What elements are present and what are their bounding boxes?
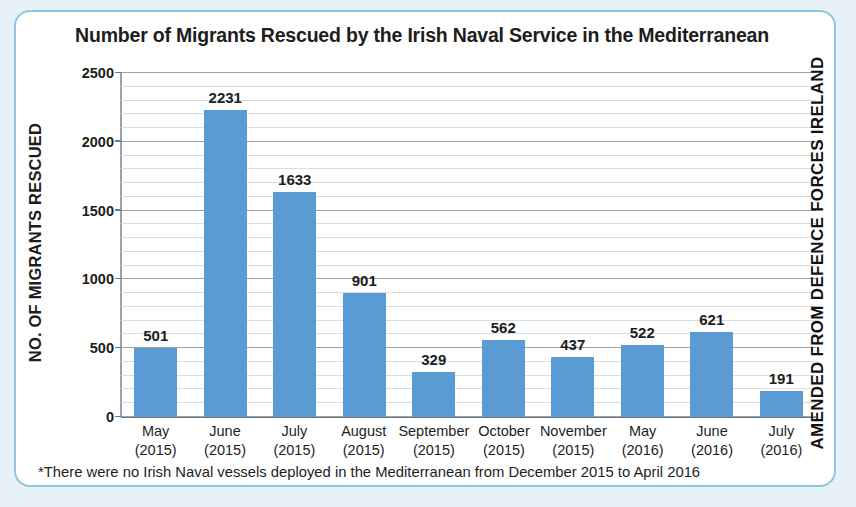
bar-slot: 562 [469, 73, 539, 417]
bar-value-label: 191 [769, 370, 794, 387]
chart-figure: Number of Migrants Rescued by the Irish … [0, 0, 856, 507]
bar[interactable]: 621 [690, 332, 733, 417]
bar[interactable]: 901 [343, 293, 386, 417]
x-axis-label-year: (2015) [469, 441, 538, 460]
bar-slot: 2231 [191, 73, 261, 417]
y-axis-tick-label: 0 [56, 409, 114, 425]
y-axis-tick-label: 2500 [56, 65, 114, 81]
bar-value-label: 522 [630, 324, 655, 341]
y-axis-tick-mark [115, 416, 121, 418]
x-axis-label-month: May [629, 423, 656, 439]
y-axis-tick-label: 1500 [56, 203, 114, 219]
bar-value-label: 1633 [278, 171, 311, 188]
footnote: *There were no Irish Naval vessels deplo… [38, 464, 808, 480]
bar[interactable]: 2231 [204, 110, 247, 417]
bar-slot: 901 [330, 73, 400, 417]
y-axis-title: NO. OF MIGRANTS RESCUED [22, 67, 50, 417]
x-axis-label-year: (2016) [608, 441, 677, 460]
y-axis-tick-mark [115, 209, 121, 211]
y-axis-tick-mark [115, 72, 121, 74]
x-axis-label-month: September [398, 423, 469, 439]
x-axis-label-year: (2015) [398, 441, 469, 460]
x-axis-label-month: July [768, 423, 794, 439]
x-axis-label-year: (2015) [329, 441, 398, 460]
bar-slot: 1633 [260, 73, 330, 417]
chart-card: Number of Migrants Rescued by the Irish … [14, 10, 836, 487]
x-axis-label-year: (2016) [677, 441, 746, 460]
x-axis-tick-label: May(2016) [608, 422, 677, 459]
y-axis-tick-label: 2000 [56, 134, 114, 150]
y-axis-tick-mark [115, 140, 121, 142]
x-axis-tick-labels: May(2015)June(2015)July(2015)August(2015… [121, 422, 816, 459]
plot-area: 50122311633901329562437522621191 [121, 73, 816, 417]
x-axis-label-month: May [142, 423, 169, 439]
x-axis-label-month: June [696, 423, 727, 439]
x-axis-label-year: (2015) [539, 441, 608, 460]
bar-value-label: 501 [143, 327, 168, 344]
bar[interactable]: 1633 [273, 192, 316, 417]
bar-slot: 329 [399, 73, 469, 417]
x-axis-line [121, 417, 816, 419]
bar[interactable]: 191 [760, 391, 803, 417]
x-axis-tick-label: July(2015) [260, 422, 329, 459]
bar-series: 50122311633901329562437522621191 [121, 73, 816, 417]
x-axis-label-year: (2015) [190, 441, 259, 460]
bar-value-label: 2231 [209, 89, 242, 106]
y-axis-tick-mark [115, 278, 121, 280]
x-axis-tick-label: June(2016) [677, 422, 746, 459]
x-axis-tick-label: May(2015) [121, 422, 190, 459]
bar-value-label: 621 [699, 311, 724, 328]
bar-slot: 501 [121, 73, 191, 417]
bar-value-label: 437 [560, 336, 585, 353]
x-axis-label-month: July [281, 423, 307, 439]
bar[interactable]: 562 [482, 340, 525, 417]
bar-value-label: 901 [352, 272, 377, 289]
x-axis-label-month: November [540, 423, 607, 439]
bar[interactable]: 501 [134, 348, 177, 417]
x-axis-tick-label: June(2015) [190, 422, 259, 459]
bar[interactable]: 522 [621, 345, 664, 417]
bar-value-label: 562 [491, 319, 516, 336]
bar[interactable]: 329 [412, 372, 455, 417]
x-axis-label-month: August [341, 423, 386, 439]
source-credit: AMENDED FROM DEFENCE FORCES IRELAND [802, 38, 832, 468]
bar[interactable]: 437 [551, 357, 594, 417]
x-axis-label-month: June [209, 423, 240, 439]
x-axis-label-month: October [478, 423, 530, 439]
x-axis-label-year: (2015) [121, 441, 190, 460]
bar-value-label: 329 [421, 351, 446, 368]
bar-slot: 522 [608, 73, 678, 417]
bar-slot: 437 [538, 73, 608, 417]
source-credit-text: AMENDED FROM DEFENCE FORCES IRELAND [807, 56, 827, 449]
x-axis-tick-label: August(2015) [329, 422, 398, 459]
x-axis-tick-label: October(2015) [469, 422, 538, 459]
x-axis-tick-label: November(2015) [539, 422, 608, 459]
bar-slot: 621 [677, 73, 747, 417]
y-axis-tick-labels: 05001000150020002500 [56, 73, 114, 417]
chart-title: Number of Migrants Rescued by the Irish … [32, 24, 812, 47]
y-axis-tick-label: 500 [56, 340, 114, 356]
x-axis-tick-label: September(2015) [398, 422, 469, 459]
x-axis-label-year: (2015) [260, 441, 329, 460]
y-axis-title-text: NO. OF MIGRANTS RESCUED [27, 122, 46, 361]
y-axis-tick-label: 1000 [56, 271, 114, 287]
y-axis-tick-mark [115, 347, 121, 349]
